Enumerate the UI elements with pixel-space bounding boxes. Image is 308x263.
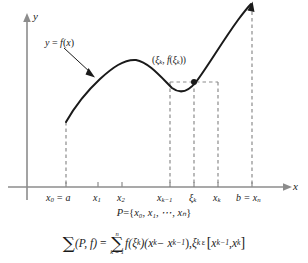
vertical-dashed-lines bbox=[66, 5, 252, 187]
tick-label-x1: x1 bbox=[93, 193, 101, 204]
tick-label-xi-k: ξk bbox=[189, 193, 196, 204]
riemann-sum-formula: ∑(P, f) = n∑k = 1f(ξk)(xk − xk−1),ξkε[xk… bbox=[63, 231, 245, 256]
partition-items: x₀, x₁, ⋯, xₙ bbox=[134, 207, 186, 218]
curve-label: y = f(x) bbox=[45, 38, 74, 48]
sum-operator: n∑k = 1 bbox=[110, 231, 124, 256]
sum-summand-mid: )(x bbox=[141, 238, 154, 250]
tick-label-xk: xk bbox=[213, 193, 220, 204]
point-label-close: ) bbox=[183, 55, 186, 65]
tick-x0-suffix: = a bbox=[54, 192, 71, 203]
tick-x2-sub: 2 bbox=[121, 196, 124, 203]
sample-point-label: (ξk, f(ξk)) bbox=[152, 56, 186, 66]
partition-close-brace: } bbox=[186, 207, 191, 218]
sample-point-marker bbox=[191, 79, 197, 85]
sum-interval-a-sub: k−1 bbox=[216, 239, 229, 247]
tick-b-suffix-sub: n bbox=[257, 196, 260, 203]
sum-limit-bottom: k = 1 bbox=[110, 249, 124, 256]
sum-member-sub: k bbox=[197, 239, 200, 247]
tick-label-x2: x2 bbox=[117, 193, 125, 204]
partition-formula: P={x₀, x₁, ⋯, xₙ} bbox=[117, 208, 191, 219]
y-axis-arrowhead bbox=[23, 13, 31, 22]
y-axis-label: y bbox=[33, 11, 38, 22]
tick-b-suffix: = x bbox=[241, 192, 257, 203]
curve-label-arrow-shaft bbox=[64, 48, 91, 73]
tick-xk-sub: k bbox=[217, 196, 220, 203]
tick-label-xk-1: xk−1 bbox=[157, 193, 172, 204]
tick-label-b: b = xn bbox=[236, 193, 261, 204]
sum-member-rel: ε bbox=[202, 239, 205, 247]
sum-interval-close: ] bbox=[241, 236, 246, 250]
tick-xi-k-sub: k bbox=[193, 196, 196, 203]
tick-xk-1-sub: k−1 bbox=[161, 196, 172, 203]
sum-summand-head: f(ξ bbox=[125, 238, 137, 250]
sum-lhs-args: (P, f) bbox=[75, 238, 97, 250]
curve-label-close-paren: ) bbox=[71, 37, 74, 48]
riemann-sum-figure: y x y = f(x) (ξk, f(ξk)) x0 = a x1 x2 xk… bbox=[0, 0, 308, 263]
sum-lhs-sigma: ∑ bbox=[63, 237, 75, 251]
sum-summand-end: ), bbox=[185, 238, 192, 250]
tick-x1-sub: 1 bbox=[97, 196, 100, 203]
sum-summand-minus: − x bbox=[157, 238, 173, 250]
tick-label-x0: x0 = a bbox=[46, 193, 71, 204]
sum-summand-sub3: k−1 bbox=[173, 239, 186, 247]
x-axis-arrowhead bbox=[283, 183, 292, 191]
x-axis-label: x bbox=[293, 181, 298, 192]
